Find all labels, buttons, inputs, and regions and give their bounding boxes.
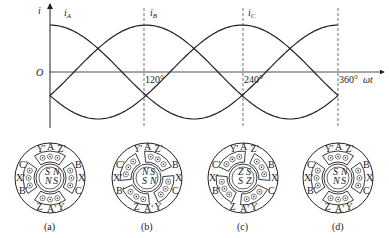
stator-label-bottom_right: Y xyxy=(346,201,353,212)
stator-label-left: X' xyxy=(209,172,218,183)
conductor-dot xyxy=(71,177,73,179)
stator-label-top: A xyxy=(144,141,152,152)
rotor-pole-label: Z xyxy=(246,175,252,186)
conductor-dot xyxy=(167,181,169,183)
stator-label-bottom_left: Z xyxy=(324,201,330,212)
conductor-dot xyxy=(253,196,255,198)
stator-label-left_top: C' xyxy=(307,159,316,170)
label-iA: iA xyxy=(64,7,72,20)
conductor-dot xyxy=(345,157,347,159)
waveform-plot: i O iA iB iC 120° 240° 360° ωt xyxy=(36,4,384,128)
conductor-dot xyxy=(224,188,226,190)
conductor-dot xyxy=(357,170,359,172)
stator-label-top_left: Y' xyxy=(36,143,45,154)
rotor-pole-label: N xyxy=(332,175,341,186)
conductor-dot xyxy=(337,199,339,201)
stator-label-bottom_right: Y xyxy=(251,201,258,212)
stator-label-bottom_left: Z xyxy=(133,201,139,212)
conductor-dot xyxy=(246,198,248,200)
stator-label-right: X xyxy=(366,172,374,183)
stator-label-bottom_right: Y xyxy=(58,201,65,212)
stator-label-right_top: B xyxy=(268,159,275,170)
stator-label-right_top: B xyxy=(75,159,82,170)
conductor-dot xyxy=(317,170,319,172)
stator-label-right: X xyxy=(271,172,279,183)
motor-diagrams: SNNSY'AZ'BXCYA'ZB'X'C'(a)NSSNY'AZ'BXCYA'… xyxy=(15,141,374,233)
conductor-dot xyxy=(256,161,258,163)
stator-label-top_left: Y' xyxy=(229,143,238,154)
conductor-dot xyxy=(49,156,51,158)
stator-label-right_top: B xyxy=(363,159,370,170)
winding-block xyxy=(250,154,270,181)
tick-360: 360° xyxy=(339,74,358,85)
conductor-dot xyxy=(259,191,261,193)
stator-label-bottom_left: Z xyxy=(36,201,42,212)
rotor-pole-label: S xyxy=(53,175,58,186)
stator-label-bottom: A' xyxy=(240,203,249,214)
rotor-pole-label: S xyxy=(142,175,147,186)
label-iC: iC xyxy=(248,7,256,20)
tick-120: 120° xyxy=(145,74,164,85)
conductor-dot xyxy=(69,170,71,172)
conductor-dot xyxy=(228,194,230,196)
conductor-dot xyxy=(263,174,265,176)
tick-240: 240° xyxy=(244,74,263,85)
stator-label-left: X' xyxy=(16,172,25,183)
conductor-dot xyxy=(128,167,130,169)
rotor-pole-label: N xyxy=(149,175,158,186)
caption: (a) xyxy=(44,221,55,233)
conductor-dot xyxy=(42,157,44,159)
conductor-dot xyxy=(125,174,127,176)
stator-label-top_right: Z' xyxy=(58,143,66,154)
stator-label-bottom: A' xyxy=(47,203,56,214)
conductor-dot xyxy=(28,177,30,179)
conductor-dot xyxy=(357,185,359,187)
caption: (d) xyxy=(332,221,344,233)
conductor-dot xyxy=(232,159,234,161)
stator-label-top_left: Y' xyxy=(133,143,142,154)
conductor-dot xyxy=(221,181,223,183)
conductor-dot xyxy=(330,157,332,159)
stator-label-right_top: B xyxy=(172,159,179,170)
rotor-pole-label: S xyxy=(238,175,243,186)
stator-label-left: X' xyxy=(113,172,122,183)
caption: (b) xyxy=(141,221,153,233)
stator-label-right_bottom: C xyxy=(75,185,82,196)
y-axis-label: i xyxy=(38,5,41,16)
stator-label-top: A xyxy=(240,141,248,152)
stator-label-bottom: A' xyxy=(144,203,153,214)
stator-label-left_bottom: B' xyxy=(212,185,221,196)
stator-label-top: A xyxy=(335,141,343,152)
stator-label-bottom_right: Y xyxy=(155,201,162,212)
conductor-dot xyxy=(345,197,347,199)
winding-block xyxy=(154,176,174,203)
conductor-dot xyxy=(261,167,263,169)
stator-label-left_top: C' xyxy=(212,159,221,170)
conductor-dot xyxy=(160,194,162,196)
motor-d: SNNSY'AZ'BXCYA'ZB'X'C'(d) xyxy=(303,141,374,233)
conductor-dot xyxy=(130,191,132,193)
three-phase-diagram: i O iA iB iC 120° 240° 360° ωt SNNSY'AZ'… xyxy=(0,0,389,238)
stator-label-right_bottom: C xyxy=(172,185,179,196)
stator-label-top_right: Z' xyxy=(155,143,163,154)
stator-label-top_left: Y' xyxy=(324,143,333,154)
conductor-dot xyxy=(165,188,167,190)
conductor-dot xyxy=(136,196,138,198)
stator-label-bottom: A' xyxy=(335,203,344,214)
stator-label-top_right: Z' xyxy=(251,143,259,154)
conductor-dot xyxy=(150,156,152,158)
conductor-dot xyxy=(330,197,332,199)
conductor-dot xyxy=(226,163,228,165)
caption: (c) xyxy=(237,221,248,233)
motor-c: ZSSZY'AZ'BXCYA'ZB'X'C'(c) xyxy=(208,141,279,233)
conductor-dot xyxy=(337,156,339,158)
stator-label-left_bottom: B' xyxy=(19,185,28,196)
conductor-dot xyxy=(317,185,319,187)
conductor-dot xyxy=(163,163,165,165)
conductor-dot xyxy=(69,185,71,187)
conductor-dot xyxy=(29,185,31,187)
stator-label-left_bottom: B' xyxy=(307,185,316,196)
conductor-dot xyxy=(57,157,59,159)
stator-label-right: X xyxy=(175,172,183,183)
stator-label-left_top: C' xyxy=(19,159,28,170)
